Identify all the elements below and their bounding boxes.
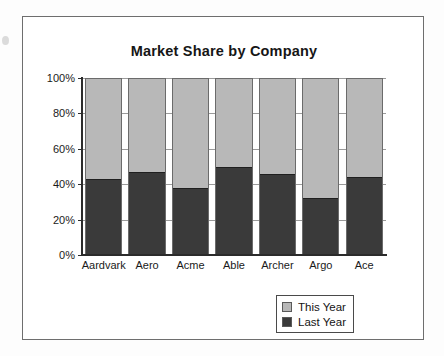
x-axis-tick-label: Argo bbox=[309, 259, 332, 271]
bar-slot: Ace bbox=[343, 78, 386, 255]
y-axis-tick-label: 40% bbox=[53, 178, 75, 190]
plot-area: 0%20%40%60%80%100% AardvarkAeroAcmeAbleA… bbox=[82, 78, 386, 255]
chart-title: Market Share by Company bbox=[23, 43, 425, 59]
x-axis-tick-label: Aero bbox=[136, 259, 159, 271]
bar-slot: Aardvark bbox=[82, 78, 125, 255]
x-axis-tick-label: Acme bbox=[176, 259, 204, 271]
stacked-bar[interactable] bbox=[259, 78, 296, 255]
bar-segment-last-year bbox=[260, 174, 295, 255]
bar-slot: Acme bbox=[169, 78, 212, 255]
bar-slot: Aero bbox=[125, 78, 168, 255]
chart-legend: This Year Last Year bbox=[276, 295, 354, 333]
legend-item-last-year: Last Year bbox=[282, 314, 346, 329]
bar-slot: Able bbox=[212, 78, 255, 255]
y-axis-line bbox=[81, 77, 83, 256]
stacked-bar[interactable] bbox=[346, 78, 383, 255]
y-axis-tick-label: 60% bbox=[53, 143, 75, 155]
bar-slot: Argo bbox=[299, 78, 342, 255]
stacked-bar[interactable] bbox=[172, 78, 209, 255]
bar-group: AardvarkAeroAcmeAbleArcherArgoAce bbox=[82, 78, 386, 255]
x-axis-line bbox=[81, 254, 387, 256]
y-axis-tick-label: 0% bbox=[59, 249, 75, 261]
bar-segment-last-year bbox=[216, 167, 251, 255]
x-axis-tick-label: Able bbox=[223, 259, 245, 271]
x-axis-tick-label: Ace bbox=[355, 259, 374, 271]
bar-segment-last-year bbox=[129, 172, 164, 254]
bar-segment-last-year bbox=[347, 177, 382, 254]
y-axis-tick-label: 100% bbox=[47, 72, 75, 84]
legend-swatch-this-year bbox=[282, 302, 292, 312]
stacked-bar[interactable] bbox=[85, 78, 122, 255]
x-axis-tick-label: Aardvark bbox=[82, 259, 126, 271]
chart-page: Market Share by Company 0%20%40%60%80%10… bbox=[0, 0, 444, 356]
scan-artifact bbox=[2, 36, 9, 45]
legend-item-this-year: This Year bbox=[282, 299, 346, 314]
y-axis-tick-label: 80% bbox=[53, 107, 75, 119]
stacked-bar[interactable] bbox=[302, 78, 339, 255]
stacked-bar[interactable] bbox=[215, 78, 252, 255]
x-axis-tick-label: Archer bbox=[261, 259, 293, 271]
bar-segment-last-year bbox=[303, 198, 338, 254]
stacked-bar[interactable] bbox=[128, 78, 165, 255]
legend-label-this-year: This Year bbox=[298, 301, 346, 313]
legend-label-last-year: Last Year bbox=[298, 316, 346, 328]
legend-swatch-last-year bbox=[282, 317, 292, 327]
figure-frame: Market Share by Company 0%20%40%60%80%10… bbox=[22, 16, 424, 340]
y-axis-tick-label: 20% bbox=[53, 214, 75, 226]
bar-slot: Archer bbox=[256, 78, 299, 255]
bar-segment-last-year bbox=[86, 179, 121, 254]
bar-segment-last-year bbox=[173, 188, 208, 255]
